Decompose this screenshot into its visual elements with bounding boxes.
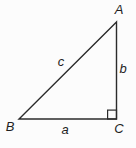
right-triangle-diagram: A B C a b c (0, 0, 136, 148)
side-label-a: a (61, 123, 68, 136)
vertex-label-a: A (115, 3, 124, 16)
vertex-label-b: B (6, 120, 15, 133)
side-label-c: c (58, 55, 65, 68)
side-label-b: b (119, 62, 126, 75)
triangle-outline (19, 22, 117, 119)
right-angle-marker (108, 110, 117, 119)
vertex-label-c: C (114, 122, 123, 135)
